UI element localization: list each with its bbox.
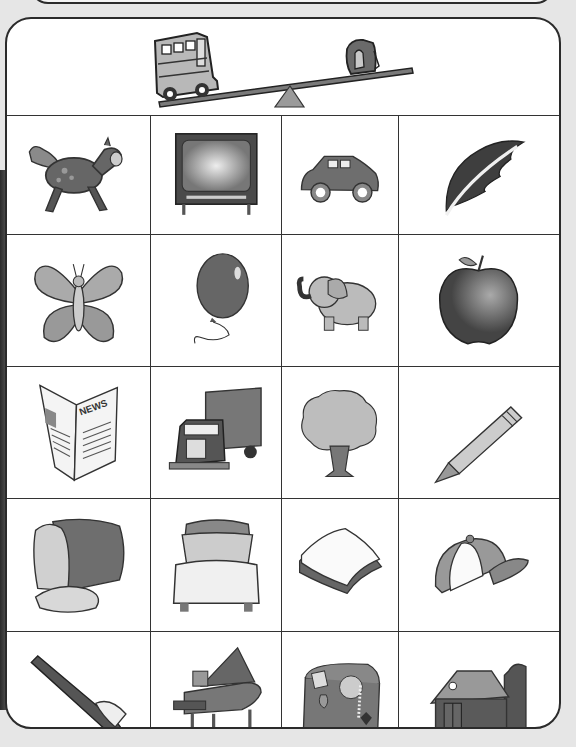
apple-icon — [413, 247, 544, 355]
baseball-cap-icon — [413, 511, 544, 619]
grid-cell-car[interactable]: car — [281, 115, 398, 234]
previous-panel-frame — [30, 0, 554, 4]
school-bus-icon — [155, 33, 218, 101]
pencil-icon — [413, 379, 544, 487]
grid-cell-treasure-chest[interactable]: treasure chest — [281, 631, 398, 729]
bread-loaf-icon — [20, 511, 137, 619]
grand-piano-icon — [163, 643, 270, 729]
picture-grid: horse television car — [7, 115, 559, 729]
barn-icon — [413, 643, 544, 729]
grid-cell-tree[interactable]: tree — [281, 366, 398, 498]
television-icon — [163, 127, 270, 224]
grid-cell-toothbrush[interactable]: toothbrush — [7, 631, 150, 729]
grid-cell-balloon[interactable]: balloon — [150, 234, 281, 366]
grid-cell-sandwich[interactable]: sandwich — [281, 498, 398, 630]
worksheet-panel: horse television car — [5, 17, 561, 729]
toothbrush-icon — [20, 643, 137, 729]
car-icon — [292, 127, 387, 224]
sandwich-icon — [292, 511, 387, 619]
grid-cell-pencil[interactable]: pencil — [398, 366, 559, 498]
backpack-icon — [347, 40, 380, 74]
bed-icon — [163, 511, 270, 619]
grid-cell-bread[interactable]: bread loaf — [7, 498, 150, 630]
grid-cell-barn[interactable]: barn — [398, 631, 559, 729]
treasure-chest-icon — [292, 643, 387, 729]
grid-cell-butterfly[interactable]: butterfly — [7, 234, 150, 366]
balloon-icon — [163, 247, 270, 355]
elephant-icon — [292, 247, 387, 355]
feather-icon — [413, 127, 544, 224]
grid-cell-elephant[interactable]: elephant — [281, 234, 398, 366]
horse-icon — [20, 127, 137, 224]
tree-icon — [292, 379, 387, 487]
grid-cell-feather[interactable]: feather — [398, 115, 559, 234]
grid-cell-apple[interactable]: apple — [398, 234, 559, 366]
seesaw-illustration — [7, 19, 559, 115]
butterfly-icon — [20, 247, 137, 355]
grid-cell-horse[interactable]: horse — [7, 115, 150, 234]
grid-cell-truck[interactable]: truck — [150, 366, 281, 498]
seesaw-icon — [7, 19, 561, 115]
truck-icon — [163, 379, 270, 487]
grid-cell-television[interactable]: television — [150, 115, 281, 234]
grid-cell-bed[interactable]: bed — [150, 498, 281, 630]
grid-cell-newspaper[interactable]: NEWS newspaper — [7, 366, 150, 498]
newspaper-icon: NEWS — [20, 379, 137, 487]
grid-cell-baseball-cap[interactable]: baseball cap — [398, 498, 559, 630]
grid-cell-grand-piano[interactable]: grand piano — [150, 631, 281, 729]
